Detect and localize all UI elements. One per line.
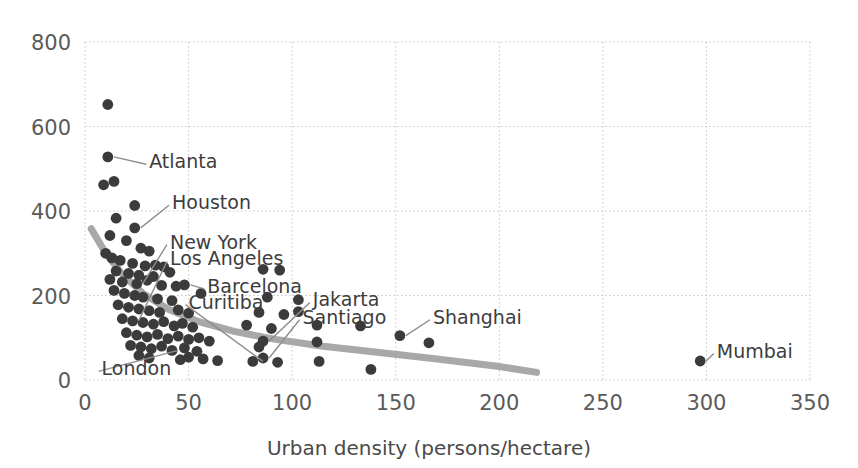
data-point	[154, 307, 165, 318]
annotation-leader	[190, 285, 204, 289]
data-point	[144, 246, 155, 257]
scatter-chart-container: AtlantaHoustonNew YorkLos AngelesBarcelo…	[0, 0, 858, 468]
data-point	[279, 309, 290, 320]
y-tick-label: 800	[31, 31, 71, 55]
data-point	[111, 213, 122, 224]
data-point	[121, 235, 132, 246]
data-point	[146, 343, 157, 354]
data-point	[695, 356, 706, 367]
x-axis-tick-labels: 050100150200250300350	[78, 391, 830, 415]
data-point	[266, 323, 277, 334]
data-point	[204, 336, 215, 347]
x-tick-label: 150	[376, 391, 416, 415]
data-point	[102, 99, 113, 110]
x-tick-label: 0	[78, 391, 91, 415]
annotation-leader	[706, 354, 714, 361]
data-point	[272, 357, 283, 368]
data-point	[366, 364, 377, 375]
data-point	[119, 288, 130, 299]
annotation-label: London	[102, 357, 172, 379]
y-tick-label: 0	[58, 369, 71, 393]
data-point	[148, 319, 159, 330]
annotation-label: Houston	[172, 191, 251, 213]
data-point	[183, 352, 194, 363]
data-point	[395, 330, 406, 341]
y-tick-label: 600	[31, 116, 71, 140]
data-point	[158, 316, 169, 327]
data-point	[131, 278, 142, 289]
data-point	[241, 320, 252, 331]
annotation-label: Los Angeles	[170, 247, 283, 269]
data-point	[129, 223, 140, 234]
data-point	[113, 299, 124, 310]
data-point	[109, 285, 120, 296]
annotation-leader	[114, 157, 146, 164]
data-point	[247, 356, 258, 367]
data-point	[125, 340, 136, 351]
data-point	[152, 329, 163, 340]
data-point	[173, 305, 184, 316]
data-point	[105, 274, 116, 285]
data-point	[254, 342, 265, 353]
data-point	[314, 356, 325, 367]
data-point	[140, 261, 151, 272]
annotation-label: Atlanta	[149, 150, 217, 172]
x-tick-label: 300	[686, 391, 726, 415]
y-axis-tick-labels: 0200400600800	[31, 31, 71, 393]
data-point	[312, 337, 323, 348]
data-point	[117, 313, 128, 324]
data-point	[167, 295, 178, 306]
data-point	[98, 179, 109, 190]
x-tick-label: 350	[790, 391, 830, 415]
y-tick-label: 400	[31, 200, 71, 224]
y-tick-label: 200	[31, 285, 71, 309]
annotation-label: Mumbai	[717, 340, 793, 362]
data-point	[121, 327, 132, 338]
data-point	[194, 332, 205, 343]
scatter-plot: AtlantaHoustonNew YorkLos AngelesBarcelo…	[0, 0, 858, 468]
data-point	[179, 343, 190, 354]
data-point	[179, 280, 190, 291]
data-point	[156, 341, 167, 352]
data-point	[142, 332, 153, 343]
data-point	[123, 302, 134, 313]
data-point	[424, 337, 435, 348]
data-point	[127, 258, 138, 269]
data-point	[127, 316, 138, 327]
annotation-label: Curitiba	[189, 291, 264, 313]
data-point	[105, 230, 116, 241]
annotation-labels: AtlantaHoustonNew YorkLos AngelesBarcelo…	[102, 150, 793, 379]
annotation-leader	[141, 205, 169, 228]
data-point	[187, 322, 198, 333]
x-axis-title: Urban density (persons/hectare)	[267, 436, 591, 460]
x-tick-label: 250	[583, 391, 623, 415]
data-point	[102, 152, 113, 163]
data-point	[212, 355, 223, 366]
data-point	[129, 200, 140, 211]
x-tick-label: 100	[272, 391, 312, 415]
data-point	[198, 354, 209, 365]
data-point	[131, 330, 142, 341]
data-point	[152, 294, 163, 305]
annotation-label: Shanghai	[433, 306, 522, 328]
data-point	[177, 318, 188, 329]
x-tick-label: 200	[479, 391, 519, 415]
data-point	[138, 292, 149, 303]
data-point	[115, 255, 126, 266]
annotation-label: Santiago	[303, 306, 387, 328]
data-point	[109, 176, 120, 187]
annotation-leader	[406, 320, 430, 336]
x-tick-label: 50	[175, 391, 202, 415]
data-point	[173, 331, 184, 342]
data-point	[117, 277, 128, 288]
